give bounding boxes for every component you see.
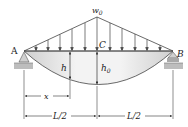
load-intensity-label: w0 — [92, 6, 103, 16]
point-label-b: B — [176, 49, 184, 59]
beam-arch-diagram: w0 A B C h h0 x L/2 L/2 — [0, 0, 188, 127]
point-label-c: C — [99, 40, 106, 50]
arch-body — [24, 51, 173, 85]
right-half-span-label: L/2 — [126, 111, 141, 121]
load-arrows — [35, 17, 162, 51]
left-half-span-label: L/2 — [52, 111, 67, 121]
h-label: h — [61, 63, 67, 73]
point-label-a: A — [10, 46, 18, 56]
x-label: x — [44, 92, 49, 101]
